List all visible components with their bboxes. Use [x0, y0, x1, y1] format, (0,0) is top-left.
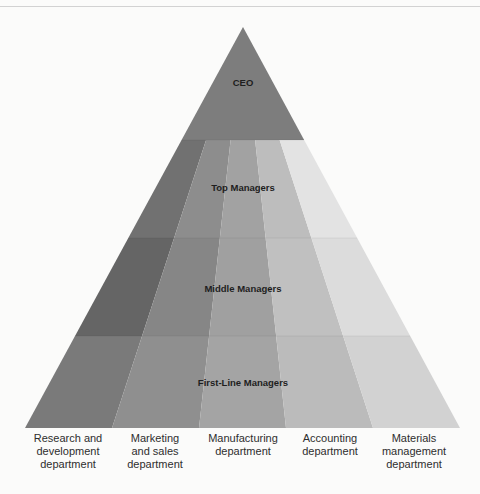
pyramid-diagram [0, 0, 480, 494]
department-label-research: Research and development department [34, 432, 103, 471]
department-label-materials: Materials management department [382, 432, 446, 471]
department-label-marketing: Marketing and sales department [127, 432, 183, 471]
department-label-manufacturing: Manufacturing department [208, 432, 278, 458]
level-label-ceo: CEO [233, 77, 254, 88]
level-label-first-line-managers: First-Line Managers [198, 377, 288, 388]
level-label-middle-managers: Middle Managers [204, 283, 281, 294]
level-label-top-managers: Top Managers [211, 182, 275, 193]
department-label-accounting: Accounting department [302, 432, 358, 458]
